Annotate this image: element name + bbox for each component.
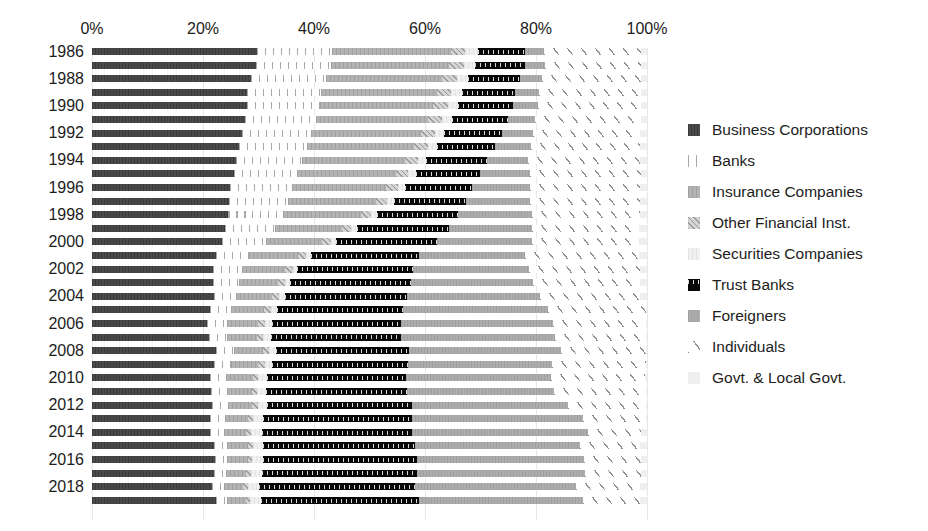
- y-tick-2000: 2000: [48, 233, 84, 251]
- bar-segment-business: [92, 211, 228, 218]
- y-tick-2010: 2010: [48, 369, 84, 387]
- legend-label: Other Financial Inst.: [712, 214, 851, 232]
- bar-segment-banks: [214, 293, 237, 300]
- legend-item-banks[interactable]: Banks: [688, 145, 924, 176]
- bar-segment-otherfin: [437, 89, 451, 96]
- bar-segment-banks: [257, 48, 331, 55]
- bar-segment-insurance: [224, 429, 246, 436]
- bar-segment-securities: [257, 388, 266, 395]
- bar-row: [92, 198, 647, 205]
- bar-segment-individuals: [525, 252, 639, 259]
- bar-segment-business: [92, 170, 234, 177]
- bar-segment-insurance: [283, 211, 361, 218]
- bar-row: [92, 402, 647, 409]
- bar-segment-insurance: [226, 374, 253, 381]
- bar-row: [92, 62, 647, 69]
- bar-segment-trust: [259, 483, 415, 490]
- bar-row: [92, 130, 647, 137]
- bar-segment-insurance: [331, 62, 449, 69]
- bar-segment-insurance: [239, 279, 278, 286]
- bar-segment-business: [92, 306, 210, 313]
- bar-segment-foreigners: [472, 184, 530, 191]
- legend-item-individuals[interactable]: Individuals: [688, 331, 924, 362]
- bar-segment-insurance: [227, 497, 246, 504]
- legend-item-foreigners[interactable]: Foreigners: [688, 300, 924, 331]
- bar-segment-individuals: [580, 442, 640, 449]
- legend-item-insurance[interactable]: Insurance Companies: [688, 176, 924, 207]
- bar-segment-foreigners: [409, 347, 561, 354]
- bar-segment-banks: [215, 456, 228, 463]
- legend-item-govt[interactable]: Govt. & Local Govt.: [688, 362, 924, 393]
- bar-segment-business: [92, 48, 257, 55]
- bar-segment-individuals: [533, 130, 640, 137]
- bar-segment-insurance: [311, 130, 421, 137]
- bar-segment-banks: [207, 320, 226, 327]
- y-tick-1988: 1988: [48, 70, 84, 88]
- bar-segment-banks: [256, 62, 331, 69]
- bar-segment-business: [92, 293, 214, 300]
- bar-segment-trust: [468, 75, 520, 82]
- bar-segment-trust: [394, 198, 466, 205]
- bar-segment-trust: [272, 320, 401, 327]
- bar-segment-business: [92, 252, 216, 259]
- bar-segment-banks: [213, 266, 242, 273]
- bar-segment-securities: [263, 334, 270, 341]
- bar-segment-insurance: [288, 198, 376, 205]
- bar-segment-banks: [213, 279, 239, 286]
- bar-segment-foreigners: [412, 402, 567, 409]
- bar-segment-securities: [387, 198, 394, 205]
- bar-row: [92, 266, 647, 273]
- legend-item-business[interactable]: Business Corporations: [688, 114, 924, 145]
- bar-segment-trust: [267, 374, 406, 381]
- bar-segment-securities: [269, 347, 276, 354]
- x-axis-tick-labels: 0%20%40%60%80%100%: [0, 20, 700, 44]
- legend-swatch-trust-icon: [688, 279, 700, 291]
- bar-row: [92, 279, 647, 286]
- bar-segment-trust: [377, 211, 457, 218]
- bar-segment-individuals: [532, 211, 640, 218]
- bar-segment-otherfin: [421, 130, 435, 137]
- bar-segment-individuals: [544, 48, 641, 55]
- bar-segment-trust: [271, 334, 401, 341]
- bar-segment-business: [92, 483, 212, 490]
- bar-segment-foreigners: [502, 130, 534, 137]
- bar-row: [92, 170, 647, 177]
- bar-segment-insurance: [302, 157, 405, 164]
- bar-segment-otherfin: [449, 62, 464, 69]
- bar-row: [92, 497, 647, 504]
- bar-segment-banks: [214, 442, 227, 449]
- bar-row: [92, 374, 647, 381]
- y-tick-2014: 2014: [48, 423, 84, 441]
- bar-segment-otherfin: [405, 157, 418, 164]
- bar-segment-trust: [266, 388, 407, 395]
- bar-segment-foreigners: [437, 238, 531, 245]
- bar-segment-govt: [639, 225, 647, 232]
- bar-segment-otherfin: [285, 266, 293, 273]
- bar-segment-govt: [639, 238, 647, 245]
- bar-row: [92, 89, 647, 96]
- bar-segment-business: [92, 415, 210, 422]
- y-tick-1998: 1998: [48, 206, 84, 224]
- bar-segment-business: [92, 143, 239, 150]
- legend-item-otherfin[interactable]: Other Financial Inst.: [688, 207, 924, 238]
- bar-segment-insurance: [320, 102, 434, 109]
- bar-segment-foreigners: [403, 306, 547, 313]
- bar-segment-individuals: [551, 374, 645, 381]
- bar-segment-trust: [437, 143, 496, 150]
- bar-segment-foreigners: [525, 48, 544, 55]
- bar-segment-individuals: [583, 497, 640, 504]
- bar-segment-banks: [225, 225, 275, 232]
- bar-segment-individuals: [584, 456, 641, 463]
- x-tick-0: 0%: [80, 20, 103, 38]
- legend-swatch-securities-icon: [688, 248, 700, 260]
- bar-segment-individuals: [554, 388, 646, 395]
- legend-swatch-govt-icon: [688, 372, 700, 384]
- bar-segment-banks: [247, 102, 319, 109]
- bar-segment-govt: [646, 388, 647, 395]
- bar-segment-business: [92, 184, 230, 191]
- bar-segment-foreigners: [412, 429, 588, 436]
- legend-item-securities[interactable]: Securities Companies: [688, 238, 924, 269]
- y-tick-2008: 2008: [48, 342, 84, 360]
- gridline-100: [647, 48, 648, 520]
- legend-item-trust[interactable]: Trust Banks: [688, 269, 924, 300]
